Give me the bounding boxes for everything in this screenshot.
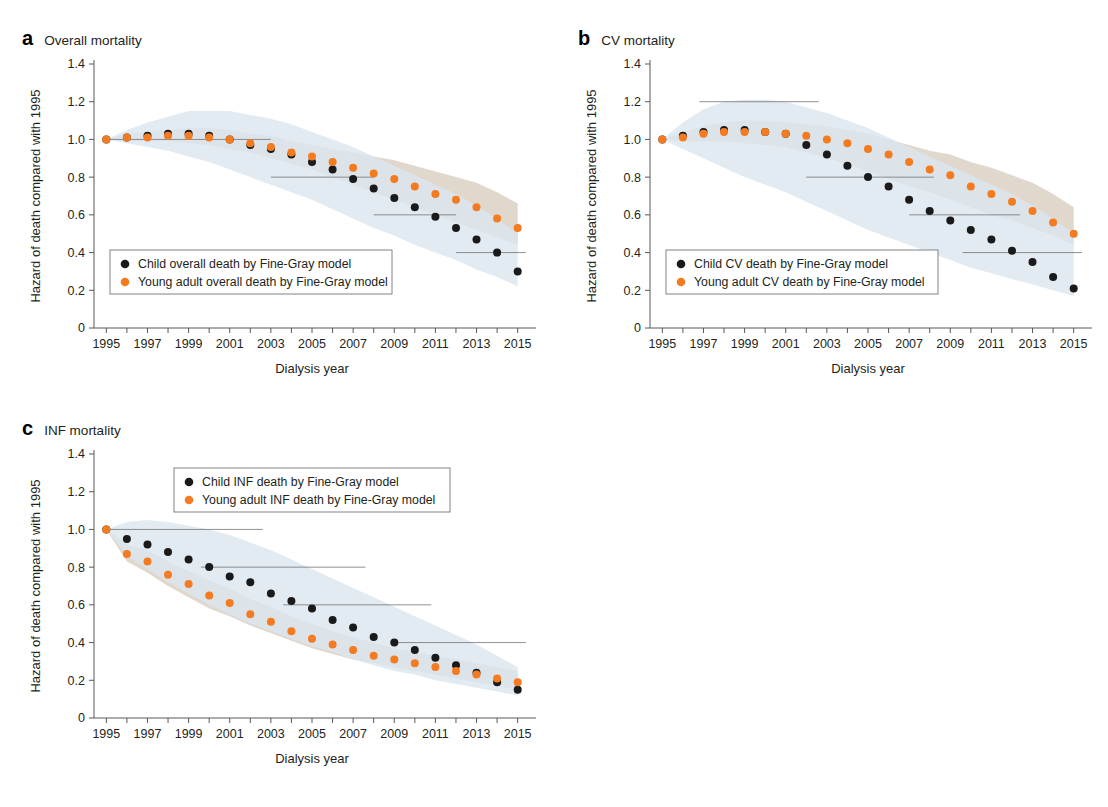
y-tick-label: 1.2 xyxy=(68,485,85,499)
data-point xyxy=(267,143,275,151)
legend-marker xyxy=(185,478,194,487)
legend-marker xyxy=(121,278,130,287)
data-point xyxy=(473,203,481,211)
x-tick-label: 1995 xyxy=(92,727,120,741)
y-tick-label: 0.6 xyxy=(624,208,641,222)
y-tick-label: 1.4 xyxy=(624,57,641,71)
x-tick-label: 1995 xyxy=(92,337,120,351)
x-tick-label: 2013 xyxy=(1019,337,1047,351)
legend-marker xyxy=(677,260,686,269)
x-tick-label: 1997 xyxy=(134,727,162,741)
data-point xyxy=(287,597,295,605)
data-point xyxy=(349,646,357,654)
panel-b-letter: b xyxy=(578,28,590,48)
data-point xyxy=(452,667,460,675)
data-point xyxy=(967,183,975,191)
data-point xyxy=(431,654,439,662)
panel-c: c INF mortality 00.20.40.60.81.01.21.419… xyxy=(22,418,542,775)
y-axis-title: Hazard of death compared with 1995 xyxy=(28,89,43,302)
x-tick-label: 2001 xyxy=(772,337,800,351)
data-point xyxy=(782,130,790,138)
x-tick-label: 2015 xyxy=(504,337,532,351)
y-tick-label: 0 xyxy=(634,321,641,335)
data-point xyxy=(370,633,378,641)
data-point xyxy=(123,550,131,558)
data-point xyxy=(308,152,316,160)
data-point xyxy=(1008,247,1016,255)
y-tick-label: 0.2 xyxy=(624,284,641,298)
data-point xyxy=(987,235,995,243)
y-tick-label: 0.4 xyxy=(68,636,85,650)
data-point xyxy=(946,217,954,225)
x-axis-title: Dialysis year xyxy=(831,361,905,376)
y-tick-label: 0.8 xyxy=(68,171,85,185)
panel-b-title: CV mortality xyxy=(601,34,675,48)
data-point xyxy=(452,196,460,204)
y-tick-label: 0 xyxy=(78,711,85,725)
data-point xyxy=(411,646,419,654)
legend-label: Young adult CV death by Fine-Gray model xyxy=(694,275,925,289)
x-tick-label: 2015 xyxy=(1060,337,1088,351)
y-tick-label: 1.0 xyxy=(68,523,85,537)
legend-label: Young adult overall death by Fine-Gray m… xyxy=(138,275,388,289)
x-tick-label: 2001 xyxy=(216,337,244,351)
x-tick-label: 2009 xyxy=(936,337,964,351)
x-tick-label: 2003 xyxy=(257,727,285,741)
y-tick-label: 0 xyxy=(78,321,85,335)
data-point xyxy=(267,618,275,626)
chart-b: 00.20.40.60.81.01.21.4199519971999200120… xyxy=(578,50,1098,385)
data-point xyxy=(802,132,810,140)
data-point xyxy=(1070,230,1078,238)
data-point xyxy=(905,158,913,166)
x-tick-label: 2015 xyxy=(504,727,532,741)
x-tick-label: 1999 xyxy=(175,337,203,351)
chart-c: 00.20.40.60.81.01.21.4199519971999200120… xyxy=(22,440,542,775)
data-point xyxy=(493,215,501,223)
legend-label: Child CV death by Fine-Gray model xyxy=(694,257,888,271)
data-point xyxy=(308,635,316,643)
data-point xyxy=(514,267,522,275)
data-point xyxy=(287,149,295,157)
x-tick-label: 2003 xyxy=(813,337,841,351)
data-point xyxy=(473,235,481,243)
data-point xyxy=(226,599,234,607)
data-point xyxy=(431,190,439,198)
data-point xyxy=(493,674,501,682)
data-point xyxy=(843,162,851,170)
panel-a-header: a Overall mortality xyxy=(22,28,542,50)
x-axis-title: Dialysis year xyxy=(275,361,349,376)
data-point xyxy=(329,166,337,174)
data-point xyxy=(411,183,419,191)
legend-a: Child overall death by Fine-Gray modelYo… xyxy=(110,250,392,294)
data-point xyxy=(390,639,398,647)
x-tick-label: 1999 xyxy=(175,727,203,741)
data-point xyxy=(679,134,687,142)
data-point xyxy=(246,578,254,586)
x-tick-label: 2011 xyxy=(422,337,449,351)
data-point xyxy=(514,678,522,686)
x-tick-label: 2005 xyxy=(298,727,326,741)
data-point xyxy=(411,659,419,667)
data-point xyxy=(946,171,954,179)
data-point xyxy=(967,226,975,234)
legend-label: Child INF death by Fine-Gray model xyxy=(202,475,399,489)
x-tick-label: 2013 xyxy=(463,337,491,351)
data-point xyxy=(185,132,193,140)
x-tick-label: 1997 xyxy=(690,337,718,351)
legend-label: Child overall death by Fine-Gray model xyxy=(138,257,351,271)
data-point xyxy=(885,151,893,159)
data-point xyxy=(102,135,110,143)
data-point xyxy=(473,671,481,679)
panel-c-plot: 00.20.40.60.81.01.21.4199519971999200120… xyxy=(22,440,542,775)
data-point xyxy=(802,141,810,149)
data-point xyxy=(164,132,172,140)
data-point xyxy=(123,535,131,543)
legend-label: Young adult INF death by Fine-Gray model xyxy=(202,493,435,507)
data-point xyxy=(411,203,419,211)
data-point xyxy=(329,158,337,166)
data-point xyxy=(370,652,378,660)
data-point xyxy=(864,173,872,181)
data-point xyxy=(905,196,913,204)
data-point xyxy=(390,656,398,664)
x-tick-label: 2007 xyxy=(339,337,367,351)
